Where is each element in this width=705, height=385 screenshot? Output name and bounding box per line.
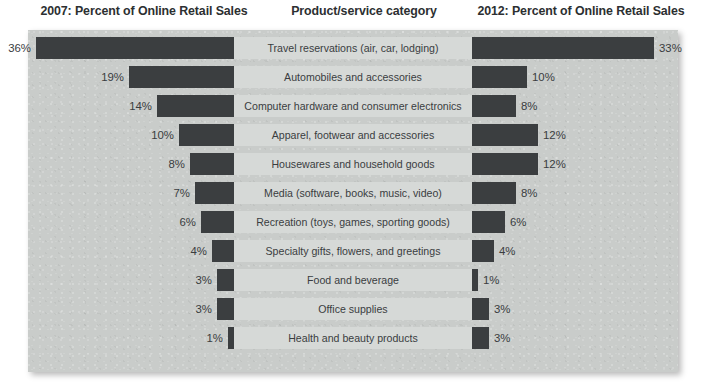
category-band: Specialty gifts, flowers, and greetings bbox=[234, 240, 472, 262]
category-band: Office supplies bbox=[234, 298, 472, 320]
bar-left-value-label: 4% bbox=[167, 240, 207, 262]
bar-right-2012 bbox=[472, 95, 516, 117]
bar-right-2012 bbox=[472, 66, 527, 88]
category-label: Housewares and household goods bbox=[234, 153, 472, 175]
bar-right-2012 bbox=[472, 153, 538, 175]
bar-left-2007 bbox=[201, 211, 234, 233]
category-band: Computer hardware and consumer electroni… bbox=[234, 95, 472, 117]
bar-right-value-label: 10% bbox=[532, 66, 572, 88]
bar-right-2012 bbox=[472, 269, 478, 291]
chart-row: 7%Media (software, books, music, video)8… bbox=[28, 179, 678, 208]
bar-left-2007 bbox=[195, 182, 234, 204]
bar-right-value-label: 12% bbox=[543, 124, 583, 146]
bar-right-2012 bbox=[472, 182, 516, 204]
category-band: Automobiles and accessories bbox=[234, 66, 472, 88]
bar-right-2012 bbox=[472, 240, 494, 262]
header-left-series: 2007: Percent of Online Retail Sales bbox=[24, 4, 264, 18]
chart-panel: 36%Travel reservations (air, car, lodgin… bbox=[28, 30, 678, 372]
bar-left-value-label: 14% bbox=[112, 95, 152, 117]
category-band: Housewares and household goods bbox=[234, 153, 472, 175]
chart-header-row: 2007: Percent of Online Retail Sales Pro… bbox=[0, 4, 705, 26]
category-label: Travel reservations (air, car, lodging) bbox=[234, 37, 472, 59]
chart-row: 3%Food and beverage1% bbox=[28, 266, 678, 295]
header-right-series: 2012: Percent of Online Retail Sales bbox=[458, 4, 704, 18]
bar-right-value-label: 4% bbox=[499, 240, 539, 262]
bar-left-2007 bbox=[212, 240, 234, 262]
category-label: Apparel, footwear and accessories bbox=[234, 124, 472, 146]
bar-left-2007 bbox=[36, 37, 234, 59]
bar-right-2012 bbox=[472, 327, 489, 349]
bar-left-value-label: 3% bbox=[172, 298, 212, 320]
bar-left-value-label: 19% bbox=[84, 66, 124, 88]
category-label: Media (software, books, music, video) bbox=[234, 182, 472, 204]
chart-row: 19%Automobiles and accessories10% bbox=[28, 63, 678, 92]
chart-row: 14%Computer hardware and consumer electr… bbox=[28, 92, 678, 121]
category-band: Food and beverage bbox=[234, 269, 472, 291]
bar-left-value-label: 1% bbox=[183, 327, 223, 349]
bar-left-value-label: 36% bbox=[0, 37, 31, 59]
bar-right-value-label: 12% bbox=[543, 153, 583, 175]
chart-row: 6%Recreation (toys, games, sporting good… bbox=[28, 208, 678, 237]
chart-row: 3%Office supplies3% bbox=[28, 295, 678, 324]
bar-right-2012 bbox=[472, 124, 538, 146]
category-label: Specialty gifts, flowers, and greetings bbox=[234, 240, 472, 262]
bar-left-2007 bbox=[190, 153, 234, 175]
chart-row: 10%Apparel, footwear and accessories12% bbox=[28, 121, 678, 150]
bar-left-2007 bbox=[157, 95, 234, 117]
bar-right-2012 bbox=[472, 37, 654, 59]
category-band: Apparel, footwear and accessories bbox=[234, 124, 472, 146]
bar-left-value-label: 7% bbox=[150, 182, 190, 204]
category-band: Media (software, books, music, video) bbox=[234, 182, 472, 204]
bar-left-value-label: 3% bbox=[172, 269, 212, 291]
category-band: Health and beauty products bbox=[234, 327, 472, 349]
bar-left-2007 bbox=[179, 124, 234, 146]
bar-right-value-label: 33% bbox=[659, 37, 699, 59]
bar-right-value-label: 6% bbox=[510, 211, 550, 233]
category-band: Travel reservations (air, car, lodging) bbox=[234, 37, 472, 59]
bar-left-value-label: 10% bbox=[134, 124, 174, 146]
category-label: Health and beauty products bbox=[234, 327, 472, 349]
chart-row: 8%Housewares and household goods12% bbox=[28, 150, 678, 179]
bar-left-2007 bbox=[217, 269, 234, 291]
chart-rows: 36%Travel reservations (air, car, lodgin… bbox=[28, 30, 678, 372]
chart-row: 36%Travel reservations (air, car, lodgin… bbox=[28, 34, 678, 63]
bar-right-value-label: 3% bbox=[494, 298, 534, 320]
category-label: Office supplies bbox=[234, 298, 472, 320]
category-label: Recreation (toys, games, sporting goods) bbox=[234, 211, 472, 233]
bar-right-value-label: 1% bbox=[483, 269, 523, 291]
bar-left-value-label: 6% bbox=[156, 211, 196, 233]
chart-row: 1%Health and beauty products3% bbox=[28, 324, 678, 353]
category-label: Computer hardware and consumer electroni… bbox=[234, 95, 472, 117]
bar-left-2007 bbox=[129, 66, 234, 88]
category-label: Automobiles and accessories bbox=[234, 66, 472, 88]
header-category: Product/service category bbox=[268, 4, 460, 18]
bilateral-bar-chart: 2007: Percent of Online Retail Sales Pro… bbox=[0, 0, 705, 385]
bar-right-2012 bbox=[472, 211, 505, 233]
bar-left-value-label: 8% bbox=[145, 153, 185, 175]
category-band: Recreation (toys, games, sporting goods) bbox=[234, 211, 472, 233]
bar-right-value-label: 8% bbox=[521, 95, 561, 117]
category-label: Food and beverage bbox=[234, 269, 472, 291]
bar-right-value-label: 3% bbox=[494, 327, 534, 349]
chart-row: 4%Specialty gifts, flowers, and greeting… bbox=[28, 237, 678, 266]
bar-left-2007 bbox=[217, 298, 234, 320]
bar-right-value-label: 8% bbox=[521, 182, 561, 204]
bar-right-2012 bbox=[472, 298, 489, 320]
